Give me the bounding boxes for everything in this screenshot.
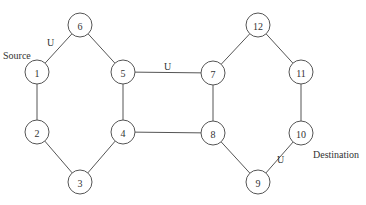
node-1: 1 [25, 60, 49, 84]
node-label: 5 [121, 68, 126, 79]
node-3: 3 [68, 170, 92, 194]
node-12: 12 [246, 13, 270, 37]
edge-label-1-6: U [47, 37, 55, 48]
node-6: 6 [68, 13, 92, 37]
edge-6-5 [88, 34, 115, 63]
edge-2-3 [45, 141, 72, 173]
node-label: 12 [253, 21, 263, 32]
node-label: 7 [211, 69, 216, 80]
destination-label: Destination [313, 149, 359, 160]
node-label: 9 [256, 178, 261, 189]
node-8: 8 [201, 121, 225, 145]
node-9: 9 [246, 170, 270, 194]
nodes-group: 123456789101112 [25, 13, 313, 194]
edge-3-4 [88, 141, 115, 173]
node-5: 5 [111, 60, 135, 84]
node-label: 10 [296, 129, 306, 140]
node-2: 2 [25, 120, 49, 144]
node-11: 11 [289, 60, 313, 84]
node-4: 4 [111, 120, 135, 144]
network-diagram: 123456789101112 Source Destination U U U [0, 0, 366, 205]
node-label: 6 [78, 21, 83, 32]
node-label: 2 [35, 128, 40, 139]
edge-7-12 [221, 34, 250, 64]
edge-5-7 [135, 72, 201, 73]
node-label: 11 [296, 68, 306, 79]
edge-label-9-10: U [277, 154, 285, 165]
edge-12-11 [266, 34, 293, 63]
node-label: 8 [211, 129, 216, 140]
edge-4-8 [135, 132, 201, 133]
edge-8-9 [221, 142, 250, 173]
source-label: Source [3, 50, 31, 61]
diagram-svg: 123456789101112 Source Destination U U U [0, 0, 366, 205]
node-7: 7 [201, 61, 225, 85]
edge-label-5-7: U [164, 61, 172, 72]
edges-group [37, 34, 301, 173]
node-label: 1 [35, 68, 40, 79]
annotations-group: Source Destination U U U [3, 37, 359, 165]
node-label: 3 [78, 178, 83, 189]
node-10: 10 [289, 121, 313, 145]
node-label: 4 [121, 128, 126, 139]
